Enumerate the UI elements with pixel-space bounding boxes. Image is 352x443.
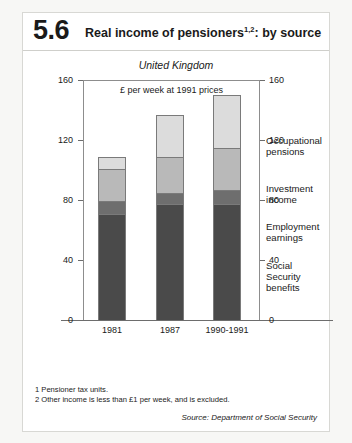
legend-item-label: Investment bbox=[266, 183, 313, 194]
bar-segment bbox=[98, 202, 126, 216]
y-tick-mark-left bbox=[78, 260, 83, 261]
y-tick-mark-left bbox=[78, 320, 83, 321]
y-tick-mark-left bbox=[78, 80, 83, 81]
y-tick-mark-right bbox=[260, 140, 265, 141]
bar-segment bbox=[156, 205, 184, 321]
y-tick-mark-right bbox=[260, 260, 265, 261]
y-tick-mark-right bbox=[260, 80, 265, 81]
figure-header: 5.6 Real income of pensioners1,2: by sou… bbox=[23, 13, 329, 51]
figure-card: 5.6 Real income of pensioners1,2: by sou… bbox=[22, 12, 330, 432]
bar-segment bbox=[98, 157, 126, 171]
x-axis-line bbox=[61, 320, 333, 321]
y-tick-mark-left bbox=[78, 200, 83, 201]
footnote-2: 2 Other income is less than £1 per week,… bbox=[35, 395, 230, 405]
y-tick-mark-right bbox=[260, 320, 265, 321]
footnote-1: 1 Pensioner tax units. bbox=[35, 385, 108, 395]
chart-subtitle: £ per week at 1991 prices bbox=[84, 85, 259, 95]
figure-title-suffix: : by source bbox=[255, 26, 322, 40]
figure-title-superscript: 1,2 bbox=[244, 25, 254, 34]
legend-item-label: Security bbox=[266, 271, 301, 282]
y-tick-label-left: 80 bbox=[23, 196, 73, 205]
y-tick-label-right: 0 bbox=[269, 316, 274, 325]
page-background: 5.6 Real income of pensioners1,2: by sou… bbox=[0, 0, 352, 443]
legend-item-label: Employment bbox=[266, 221, 319, 232]
legend-item: Investmentincome bbox=[266, 183, 313, 205]
legend-item-label: benefits bbox=[266, 282, 301, 293]
bar-segment bbox=[98, 215, 126, 320]
y-tick-label-right: 160 bbox=[269, 76, 284, 85]
legend-item-label: pensions bbox=[266, 146, 322, 157]
legend-item: SocialSecuritybenefits bbox=[266, 260, 301, 293]
y-tick-label-left: 40 bbox=[23, 256, 73, 265]
x-axis-tick-label: 1990-1991 bbox=[187, 325, 267, 335]
y-tick-label-left: 120 bbox=[23, 136, 73, 145]
legend-item-label: earnings bbox=[266, 232, 319, 243]
bar-segment bbox=[156, 158, 184, 194]
legend-item: Occupationalpensions bbox=[266, 135, 322, 157]
bar-segment bbox=[213, 205, 241, 321]
source-note: Source: Department of Social Security bbox=[181, 413, 317, 422]
y-tick-label-left: 0 bbox=[23, 316, 73, 325]
bar-segment bbox=[156, 194, 184, 205]
y-tick-label-left: 160 bbox=[23, 76, 73, 85]
figure-number: 5.6 bbox=[33, 15, 69, 45]
y-tick-mark-left bbox=[78, 140, 83, 141]
bar-segment bbox=[98, 170, 126, 202]
y-tick-mark-right bbox=[260, 200, 265, 201]
bar-segment bbox=[156, 115, 184, 159]
legend-item-label: income bbox=[266, 194, 313, 205]
legend-item-label: Social bbox=[266, 260, 301, 271]
stacked-bar bbox=[156, 115, 184, 321]
bar-segment bbox=[213, 149, 241, 191]
figure-title-text: Real income of pensioners bbox=[85, 26, 244, 40]
stacked-bar bbox=[98, 157, 126, 321]
region-label: United Kingdom bbox=[23, 59, 329, 71]
page-title: Real income of pensioners1,2: by source bbox=[85, 22, 321, 41]
bar-segment bbox=[213, 95, 241, 149]
legend-item-label: Occupational bbox=[266, 135, 322, 146]
stacked-bar bbox=[213, 95, 241, 320]
bar-segment bbox=[213, 191, 241, 205]
legend-item: Employmentearnings bbox=[266, 221, 319, 243]
